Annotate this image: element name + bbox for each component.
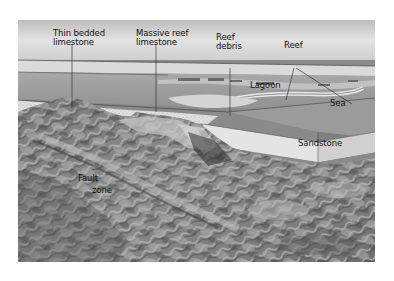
label-thin-bedded-limestone: Thin bedded limestone (53, 29, 105, 47)
label-reef: Reef (284, 41, 303, 50)
label-line: debris (216, 42, 242, 51)
label-line: limestone (136, 38, 188, 47)
label-sandstone: Sandstone (298, 139, 342, 148)
label-sea: Sea (330, 99, 346, 108)
label-line: limestone (53, 38, 105, 47)
label-reef-debris: Reef debris (216, 33, 242, 51)
label-lagoon: Lagoon (250, 81, 281, 90)
label-massive-reef-limestone: Massive reef limestone (136, 29, 188, 47)
label-fault: Fault (78, 174, 98, 183)
label-zone: zone (92, 186, 112, 195)
geology-block-diagram: Thin bedded limestone Massive reef limes… (18, 20, 375, 262)
